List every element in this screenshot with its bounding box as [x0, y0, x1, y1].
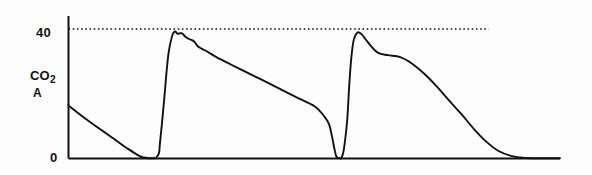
y-axis-title-a: A	[33, 86, 42, 100]
y-tick-label-40: 40	[36, 25, 51, 40]
co2-waveform-figure: 40 0 CO2 A	[0, 0, 592, 175]
y-axis-title-co2-text: CO	[30, 68, 50, 83]
plot-canvas	[0, 0, 592, 175]
y-axis-title-co2: CO2	[30, 68, 56, 85]
y-axis-title-co2-subscript: 2	[50, 74, 56, 85]
axes-group	[69, 16, 561, 159]
y-tick-label-0: 0	[50, 150, 57, 165]
co2-waveform-trace	[69, 31, 561, 158]
